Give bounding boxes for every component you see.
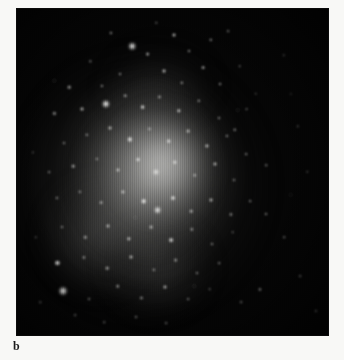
star-point-source	[290, 93, 292, 95]
star-point-source	[205, 144, 209, 148]
star-point-source	[129, 43, 136, 50]
star-point-source	[127, 137, 132, 142]
star-point-source	[193, 173, 197, 177]
star-point-source	[201, 66, 205, 70]
star-point-source	[283, 236, 286, 239]
scan-line-striping	[17, 9, 328, 335]
star-point-source	[59, 287, 67, 295]
star-point-source	[165, 322, 168, 325]
star-point-source	[80, 107, 84, 111]
star-point-source	[232, 231, 235, 234]
star-point-source	[48, 171, 51, 174]
star-point-source	[39, 301, 42, 304]
star-point-source	[140, 104, 145, 109]
star-point-source	[255, 93, 257, 95]
star-point-source	[62, 141, 65, 144]
star-point-source	[136, 157, 141, 162]
star-point-source	[85, 133, 88, 136]
star-point-source	[209, 38, 212, 41]
star-point-source	[180, 81, 183, 84]
nebula-outer-halo-glow	[17, 35, 297, 335]
star-point-source	[140, 296, 143, 299]
star-point-source	[152, 268, 155, 271]
star-point-source	[55, 196, 58, 199]
star-point-source	[283, 54, 285, 56]
star-point-source	[209, 288, 212, 291]
star-point-source	[213, 162, 217, 166]
star-point-source	[89, 60, 91, 62]
star-point-source	[141, 199, 147, 205]
star-point-source	[249, 200, 252, 203]
star-point-source	[169, 238, 174, 243]
star-point-source	[299, 275, 302, 278]
star-point-source	[123, 94, 127, 98]
star-point-source	[55, 261, 60, 266]
nebula-south-spur	[98, 224, 222, 335]
star-point-source	[67, 85, 71, 89]
star-point-source	[154, 206, 161, 213]
star-point-source	[172, 33, 176, 37]
star-point-source	[233, 128, 237, 132]
star-point-source	[225, 135, 228, 138]
star-point-source	[218, 262, 221, 265]
star-point-source	[187, 298, 190, 301]
star-point-source	[186, 129, 190, 133]
star-point-source	[163, 285, 167, 289]
star-point-source	[217, 116, 220, 119]
star-point-source	[226, 30, 229, 33]
star-point-source	[148, 127, 151, 130]
star-point-source	[218, 82, 221, 85]
star-point-source	[174, 258, 178, 262]
star-point-source	[53, 112, 56, 115]
star-point-source	[177, 109, 181, 113]
star-point-source	[101, 84, 104, 87]
star-point-source	[296, 125, 298, 127]
panel-label-b: b	[13, 339, 20, 353]
star-point-source	[73, 314, 76, 317]
star-point-source	[105, 267, 109, 271]
star-point-source	[155, 21, 157, 23]
star-point-source	[108, 126, 112, 130]
star-point-source	[99, 201, 103, 205]
star-point-source	[78, 190, 81, 193]
star-point-source	[146, 52, 150, 56]
star-point-source	[265, 164, 268, 167]
star-point-source	[245, 107, 248, 110]
star-point-source	[233, 178, 236, 181]
star-point-source	[121, 190, 125, 194]
star-point-source	[61, 226, 64, 229]
star-point-source	[103, 321, 106, 324]
star-point-source	[109, 32, 112, 35]
star-point-source	[34, 236, 36, 238]
star-point-source	[238, 65, 241, 68]
star-point-source	[190, 228, 193, 231]
star-point-source	[153, 169, 159, 175]
star-point-source	[166, 139, 171, 144]
star-point-source	[129, 255, 133, 259]
star-point-source	[83, 256, 86, 259]
astronomical-image-plate	[17, 9, 328, 335]
star-point-source	[158, 95, 161, 98]
nebula-north-spur	[92, 16, 223, 120]
star-point-source	[87, 298, 90, 301]
star-point-source	[196, 272, 199, 275]
figure-panel: b	[0, 0, 344, 360]
star-point-source	[118, 73, 121, 76]
star-point-source	[106, 224, 110, 228]
star-point-source	[135, 315, 138, 318]
star-point-source	[149, 226, 153, 230]
star-point-source	[189, 209, 193, 213]
star-point-source	[173, 160, 177, 164]
star-point-source	[197, 99, 200, 102]
star-point-source	[240, 301, 243, 304]
star-point-source	[102, 100, 109, 107]
star-point-source	[95, 157, 98, 160]
star-point-source	[211, 242, 214, 245]
star-point-source	[264, 213, 267, 216]
plate-vignette	[17, 9, 328, 335]
star-point-source	[84, 235, 87, 238]
star-point-source	[162, 69, 166, 73]
star-point-source	[314, 309, 317, 312]
star-point-source	[229, 213, 232, 216]
star-point-source	[209, 198, 213, 202]
